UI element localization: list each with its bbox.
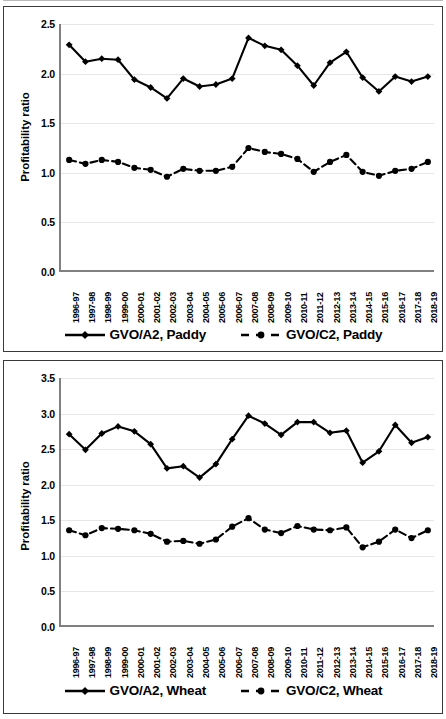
x-tick-label: 2017-18	[413, 647, 423, 678]
x-tick-label: 1999-00	[120, 292, 130, 323]
data-point-marker	[196, 83, 203, 90]
data-point-marker	[278, 530, 284, 536]
x-axis-ticks-wheat: 1996-971997-981998-991999-002000-012001-…	[59, 634, 434, 682]
data-point-marker	[262, 526, 268, 532]
x-tick-label: 2011-12	[315, 293, 325, 323]
data-point-marker	[164, 539, 170, 545]
x-tick-label: 2008-09	[266, 647, 276, 678]
x-tick-label: 2013-14	[348, 292, 358, 323]
y-tick-label: 2.0	[25, 68, 55, 80]
data-point-marker	[294, 523, 300, 529]
y-tick-label: 2.0	[25, 479, 55, 491]
data-point-marker	[115, 526, 121, 532]
x-tick-label: 2018-19	[429, 647, 439, 678]
data-point-marker	[408, 535, 414, 541]
data-point-marker	[229, 164, 235, 170]
x-tick-label: 2001-02	[152, 292, 162, 323]
x-tick-label: 2015-16	[380, 647, 390, 678]
data-point-marker	[82, 161, 88, 167]
data-point-marker	[327, 159, 333, 165]
y-tick-label: 1.0	[25, 167, 55, 179]
data-point-marker	[164, 174, 170, 180]
x-tick-label: 1998-99	[103, 647, 113, 678]
x-tick-label: 1996-97	[71, 647, 81, 678]
y-tick-label: 1.5	[25, 117, 55, 129]
data-point-marker	[360, 544, 366, 550]
data-point-marker	[180, 166, 186, 172]
data-point-marker	[311, 169, 317, 175]
y-tick-label: 3.0	[25, 408, 55, 420]
cropped-top-edge	[3, 0, 443, 4]
x-tick-label: 2018-19	[429, 292, 439, 323]
x-tick-label: 2014-15	[364, 647, 374, 678]
x-tick-label: 2009-10	[283, 292, 293, 323]
legend-marker-dashed-circle	[240, 329, 282, 341]
x-axis-ticks-paddy: 1996-971997-981998-991999-002000-012001-…	[59, 279, 434, 327]
x-tick-label: 1998-99	[103, 292, 113, 323]
legend-label: GVO/C2, Wheat	[286, 683, 382, 698]
x-tick-label: 2005-06	[217, 292, 227, 323]
x-tick-label: 2005-06	[217, 647, 227, 678]
data-point-marker	[213, 536, 219, 542]
data-point-marker	[115, 159, 121, 165]
data-point-marker	[131, 527, 137, 533]
x-tick-label: 1996-97	[71, 292, 81, 323]
data-point-marker	[213, 168, 219, 174]
x-tick-label: 2010-11	[299, 648, 309, 678]
data-point-marker	[360, 169, 366, 175]
y-tick-label: 0.5	[25, 216, 55, 228]
x-tick-label: 2006-07	[234, 292, 244, 323]
plot-region-paddy	[59, 24, 434, 272]
legend-marker-dashed-circle	[240, 685, 282, 697]
x-tick-label: 1999-00	[120, 647, 130, 678]
data-point-marker	[327, 527, 333, 533]
data-point-marker	[66, 527, 72, 533]
data-point-marker	[376, 539, 382, 545]
data-point-marker	[99, 157, 105, 163]
y-tick-label: 0.5	[25, 585, 55, 597]
legend-label: GVO/C2, Paddy	[286, 327, 382, 342]
y-tick-label: 0.0	[25, 266, 55, 278]
legend-wheat: GVO/A2, WheatGVO/C2, Wheat	[4, 683, 442, 698]
series-layer-wheat	[61, 378, 436, 627]
x-tick-label: 2008-09	[266, 292, 276, 323]
data-point-marker	[196, 168, 202, 174]
y-tick-label: 2.5	[25, 443, 55, 455]
data-point-marker	[82, 532, 88, 538]
series-line-a2	[69, 416, 428, 478]
data-point-marker	[343, 524, 349, 530]
legend-item-c2: GVO/C2, Paddy	[240, 327, 382, 342]
data-point-marker	[245, 34, 252, 41]
figure-sheet: Profitability ratio 0.00.51.01.52.02.5 1…	[0, 0, 446, 719]
data-point-marker	[278, 151, 284, 157]
legend-marker-solid-diamond	[64, 685, 106, 697]
data-point-marker	[196, 541, 202, 547]
x-tick-label: 2012-13	[332, 292, 342, 323]
y-tick-label: 3.5	[25, 372, 55, 384]
data-point-marker	[408, 78, 415, 85]
data-point-marker	[180, 538, 186, 544]
data-point-marker	[148, 531, 154, 537]
data-point-marker	[229, 524, 235, 530]
data-point-marker	[131, 165, 137, 171]
data-point-marker	[115, 423, 122, 430]
data-point-marker	[424, 73, 431, 80]
chart-area-paddy: Profitability ratio 0.00.51.01.52.02.5 1…	[4, 7, 442, 351]
data-point-marker	[294, 156, 300, 162]
y-tick-label: 0.0	[25, 621, 55, 633]
x-tick-label: 2002-03	[168, 647, 178, 678]
x-tick-label: 2014-15	[364, 292, 374, 323]
plot-region-wheat	[59, 378, 434, 627]
x-tick-label: 2007-08	[250, 647, 260, 678]
y-axis-ticks-paddy: 0.00.51.01.52.02.5	[23, 24, 55, 272]
x-tick-label: 2003-04	[185, 292, 195, 323]
x-tick-label: 1997-98	[87, 292, 97, 323]
x-tick-label: 2000-01	[136, 647, 146, 678]
series-line-c2	[69, 148, 428, 177]
chart-panel-wheat: Profitability ratio 0.00.51.01.52.02.53.…	[3, 360, 443, 714]
x-tick-label: 2002-03	[168, 292, 178, 323]
data-point-marker	[212, 81, 219, 88]
x-tick-label: 1997-98	[87, 647, 97, 678]
data-point-marker	[245, 145, 251, 151]
series-line-c2	[69, 518, 428, 547]
